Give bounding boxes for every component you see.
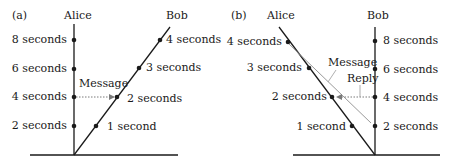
panel-b-alice-label: Alice xyxy=(267,10,295,22)
panel-b-message-label: Message xyxy=(328,57,377,69)
panel-b-bob-tick-2s: 2 seconds xyxy=(383,121,438,133)
panel-a-bob-tick-2s: 2 seconds xyxy=(127,93,182,105)
panel-b-reply-label: Reply xyxy=(347,73,379,85)
panel-a-alice-tick-4s: 4 seconds xyxy=(0,91,67,103)
panel-a-alice-label: Alice xyxy=(64,10,92,22)
panel-a-bob-tick-3s: 3 seconds xyxy=(146,62,201,74)
panel-b-alice-tick-3s: 3 seconds xyxy=(220,62,302,74)
panel-a-message-label: Message xyxy=(79,78,128,90)
panel-b-bob-tick-6s: 6 seconds xyxy=(383,64,438,76)
panel-b-bob-tick-4s: 4 seconds xyxy=(383,92,438,104)
panel-b-alice-tick-4s: 4 seconds xyxy=(200,36,282,48)
panel-b-alice-tick-2s: 2 seconds xyxy=(245,91,327,103)
panel-b-message-leader xyxy=(328,70,336,82)
panel-b-bob-tick-8s: 8 seconds xyxy=(383,35,438,47)
panel-a-bob-tick-1s: 1 second xyxy=(107,121,157,133)
panel-a-bob-label: Bob xyxy=(166,10,188,22)
panel-b-tag: (b) xyxy=(231,10,247,22)
panel-a-bob-worldline xyxy=(74,27,170,155)
diagram-canvas: (a) Alice Bob 8 seconds 6 seconds 4 seco… xyxy=(0,0,450,166)
panel-b-alice-tick-1s: 1 second xyxy=(264,121,346,133)
panel-a-alice-tick-6s: 6 seconds xyxy=(0,63,67,75)
panel-b-bob-label: Bob xyxy=(367,10,389,22)
panel-a-tag: (a) xyxy=(12,10,27,22)
panel-a-alice-tick-8s: 8 seconds xyxy=(0,34,67,46)
panel-b-alice-dots xyxy=(286,40,355,129)
panel-a-alice-tick-2s: 2 seconds xyxy=(0,120,67,132)
diagram-graphics xyxy=(0,0,450,166)
